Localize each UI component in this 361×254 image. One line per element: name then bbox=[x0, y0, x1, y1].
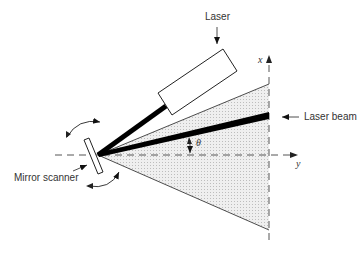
theta-label: θ bbox=[196, 137, 201, 148]
x-axis-label: x bbox=[258, 54, 262, 65]
rotation-arrow-bottom-left-head-icon bbox=[86, 183, 93, 189]
x-axis-arrow-icon bbox=[266, 55, 272, 63]
mirror-scanner-label: Mirror scanner bbox=[14, 172, 78, 183]
y-axis-label: y bbox=[296, 158, 300, 169]
laser-scanner-diagram bbox=[0, 0, 361, 254]
rotation-arrow-top-icon bbox=[67, 121, 100, 137]
laser-beam-label: Laser beam bbox=[304, 111, 357, 122]
laser-label: Laser bbox=[205, 11, 230, 22]
mirror-pointer-line bbox=[73, 165, 87, 171]
